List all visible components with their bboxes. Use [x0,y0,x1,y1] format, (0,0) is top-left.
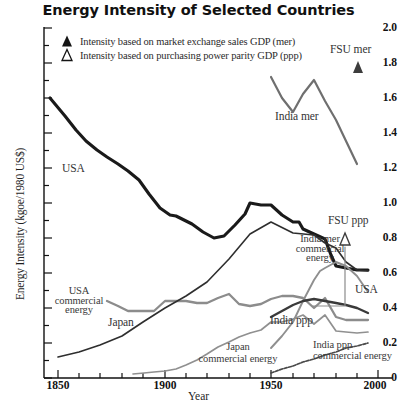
usa-commercial-line-3: energy [50,305,108,315]
usa-commercial-label: USA commercial energy [50,286,108,315]
fsu-ppp-label: FSU ppp [328,216,369,226]
series-japan-total [107,294,368,320]
series-lines [50,77,368,374]
usa-label: USA [62,164,85,174]
india-mer-comm-line-3: energy [289,253,351,263]
india-ppp-comm-line-2: commercial energy [313,351,395,361]
japan-commercial-line-1: Japan [183,342,293,352]
japan-commercial-line-2: commercial energy [183,354,293,364]
india-ppp-label: India ppp [270,316,313,326]
fsu-mer-label: FSU mer [330,45,371,55]
axis-lines [44,27,392,378]
india-mer-commercial-label: India mer commercial energy [289,234,351,263]
series-india-mer-commercial [271,262,368,348]
japan-label: Japan [108,318,134,328]
japan-commercial-label: Japan commercial energy [183,342,293,363]
india-ppp-comm-line-1: India ppp [313,340,395,350]
y-axis-ticks [44,28,52,378]
x-axis-ticks [58,370,378,378]
fsu-mer-marker-filled-triangle-icon [353,61,363,73]
india-mer-label: India mer [275,112,318,122]
usa-right-label: USA [355,285,378,295]
india-ppp-commercial-label: India ppp commercial energy [313,340,395,360]
